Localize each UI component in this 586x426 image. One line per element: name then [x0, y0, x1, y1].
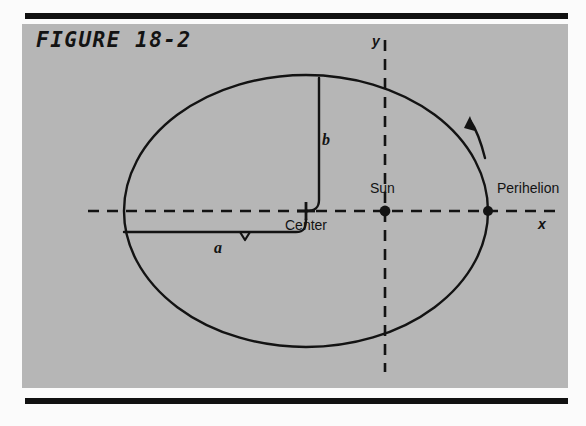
perihelion-dot-icon	[483, 206, 493, 216]
orbit-direction-arrow-icon	[464, 116, 485, 158]
semi-major-axis-leader	[124, 219, 306, 232]
center-label: Center	[285, 217, 327, 233]
y-axis-label: y	[372, 33, 380, 49]
semi-minor-axis-leader	[306, 78, 319, 211]
orbit-diagram	[0, 0, 586, 426]
semi-major-axis-label: a	[214, 239, 222, 257]
sun-dot-icon	[380, 206, 391, 217]
semi-minor-axis-label: b	[322, 131, 330, 149]
x-axis-label: x	[538, 216, 546, 232]
figure-page: FIGURE 18-2 Sun Center Perihelion a b	[0, 0, 586, 426]
bottom-rule	[25, 398, 568, 404]
perihelion-label: Perihelion	[497, 180, 559, 196]
sun-label: Sun	[370, 180, 395, 196]
